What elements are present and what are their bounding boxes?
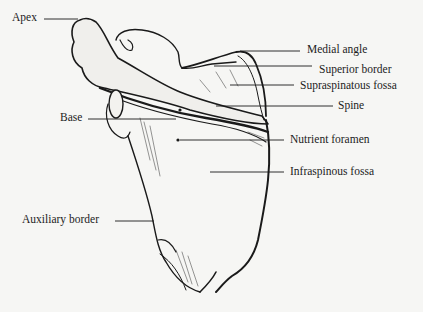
label-superior-border: Superior border — [319, 63, 392, 76]
label-nutrient-foramen: Nutrient foramen — [290, 133, 370, 146]
label-medial-angle: Medial angle — [307, 43, 367, 56]
label-supraspinatous-fossa: Supraspinatous fossa — [300, 79, 397, 92]
label-infraspinous-fossa: Infraspinous fossa — [290, 165, 374, 178]
scapula-illustration — [72, 19, 269, 292]
label-apex: Apex — [12, 11, 37, 24]
label-spine: Spine — [338, 99, 364, 112]
label-base: Base — [60, 111, 82, 124]
label-auxiliary-border: Auxiliary border — [22, 213, 99, 226]
